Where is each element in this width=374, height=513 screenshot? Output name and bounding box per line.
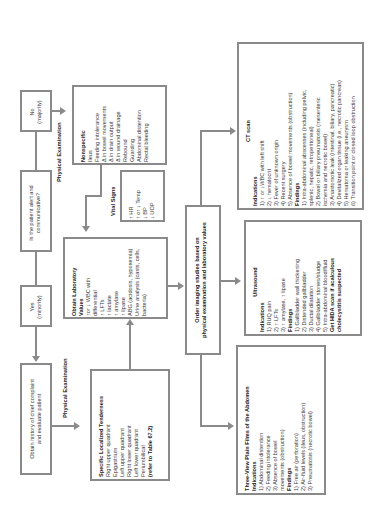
list-item: ↑or ↓ WBC with [85,249,92,316]
nonspecific-box: Nonspecific Ileus Feeding intolerance Δ … [72,85,167,165]
connector [221,280,235,282]
list-item: 3) Anastomotic leak (intestinal, biliary… [329,56,336,206]
list-item: Rectal bleeding [143,106,150,162]
labs-box: Obtain Laboratory Values ↑or ↓ WBC with … [63,237,168,319]
list-item: 2) Feeding intolerance [265,386,272,491]
connector [85,195,87,227]
connector [200,425,228,427]
list-item: 1) Abdominal distention [258,386,265,491]
imaging-box: Order imaging studies based on physical … [185,205,221,355]
arrow-right-icon [235,277,241,285]
list-item: splenic, hepatic, retroperitoneal) [308,56,315,206]
yes-box: Yes (minority) [20,285,52,327]
list-item: Abdominal distention [136,106,143,162]
connector [129,325,131,369]
list-item: Right lower quadrant [126,396,133,477]
arrow-right-icon [230,127,236,135]
connector [100,165,102,195]
list-item: 1) RUQ pain [266,232,273,332]
list-item: 5) Hematoma or leaking aneurysm [343,56,350,206]
arrow-down-icon [32,356,40,362]
list-item: bacteria) [141,249,148,316]
question-text: Is the patient alert and communicative? [28,176,42,250]
ct-indications-label: Indications [252,56,259,206]
labs-title-2: Values [78,249,85,316]
physical-exam-label-top: Physical Examination [56,122,62,182]
list-item: 4) Recent surgery [280,56,287,206]
list-item: 4) Gallbladder stones/sludge [315,232,322,332]
imaging-line1: Order imaging studies based on [194,209,201,351]
question-label: Is the patient alert and communicative? [28,176,42,250]
list-item: 3) Absence of bowel [272,386,279,491]
yes-label: Yes [29,289,36,325]
arrow-right-icon [228,422,234,430]
arrow-up-icon [126,319,134,325]
list-item: 3) Fever of unknown origin [273,56,280,206]
list-item: Δ in drain output [108,106,115,162]
table-reference: (refer to Table 67.2) [147,396,154,477]
list-item: ischemia and necrotic bowel) [322,56,329,206]
ultrasound-findings-label: Findings [287,232,294,332]
ct-scan-box: CT scan Indications 1) ↑ or ↓WBC with le… [237,42,364,210]
connector [35,327,37,357]
list-item: Rebound [122,106,129,162]
yes-sublabel: (minority) [36,289,43,325]
list-item: 2) ↓ hematocrit [266,56,273,206]
history-line2: and evaluate patient [36,367,43,471]
list-item: Periumbilical [140,396,147,477]
list-item: ↑ lactate [106,249,113,316]
history-line1: Obtain history of chief complaint [29,367,36,471]
connector [200,130,230,132]
list-item: 4) Devitalized organ tissue (i.e., necro… [336,56,343,206]
vital-signs-label: Vital Signs [110,186,116,216]
vital-signs-box: ↑ HR ↑ or ↓ Temp ↓ BP ↓ UOP [120,170,165,222]
connector [35,252,37,285]
list-item: 5) Intra-abdominal blood/fluid [322,232,329,332]
connector [85,195,102,197]
arrow-right-icon [60,107,66,115]
plain-films-findings-label: Findings [286,386,293,491]
connector [200,355,202,425]
list-item: Ileus [87,106,94,162]
no-box: No (majority) [20,90,52,132]
ct-title: CT scan [245,56,252,206]
list-item: 2) ↑ LFTs [273,232,280,332]
list-item: 2) Air-fluid levels (ileus, obstruction) [300,386,307,491]
list-item: Epigastrium [112,396,119,477]
connector [52,425,74,427]
list-item: ↓ UOP [149,190,156,219]
list-item: Urine analysis (casts, cells, [134,249,141,316]
plain-films-title: Three-View Plain Films of the Abdomen [244,386,251,491]
list-item: 3) ↑ amylase, ↑ lipase [280,232,287,332]
labs-title: Obtain Laboratory [71,249,78,316]
arrow-down-icon [82,226,90,232]
list-item: 1) Gallbladder wall thickening [294,232,301,332]
list-item: ↑ LFTs [99,249,106,316]
list-item: ABG (acidosis, hypoxemia) [127,249,134,316]
arrow-right-icon [178,282,184,290]
ultrasound-indications-label: Indications [259,232,266,332]
no-label: No [29,94,36,130]
connector [52,110,60,112]
list-item: movements (obstruction) [279,386,286,491]
hida-note-2: cholecystitis suspected [336,232,343,332]
question-box: Is the patient alert and communicative? [20,170,52,252]
list-item: Guarding [129,106,136,162]
list-item: 3) Pneumatosis (necrotic bowel) [307,386,314,491]
list-item: Left lower quadrant [133,396,140,477]
list-item: ↑ lipase [120,249,127,316]
list-item: differential [92,249,99,316]
ultrasound-box: Ultrasound Indications 1) RUQ pain 2) ↑ … [244,220,362,336]
nonspecific-title: Nonspecific [80,106,87,162]
list-item: ↑ amylase [113,249,120,316]
connector [200,130,202,205]
localized-title: Specific Localized Tenderness [98,396,105,477]
imaging-line2: physical examination and laboratory valu… [201,209,208,351]
hida-note: Get HIDA scan if acalculous [329,232,336,332]
list-item: ↑ or ↓ Temp [135,190,142,219]
list-item: 1) Free air (perforation) [293,386,300,491]
list-item: 2) Distended gallbladder [301,232,308,332]
localized-tenderness-box: Specific Localized Tenderness Right uppe… [90,369,170,481]
list-item: 1) Intra-abdominal abscesses (including … [301,56,308,206]
list-item: 2) Bowel or biliary pneumatosis (mesente… [315,56,322,206]
